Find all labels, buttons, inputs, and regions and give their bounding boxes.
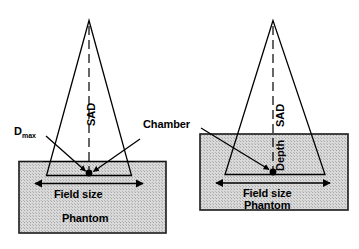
diagram-canvas: D max SAD Field size Phantom (0, 0, 359, 249)
sad-label-right: SAD (274, 104, 286, 127)
field-size-label-right: Field size (243, 187, 292, 199)
phantom-label-left: Phantom (62, 212, 109, 224)
chamber-label: Chamber (143, 118, 191, 130)
panel-sad-setup: SAD Depth Field size Phantom (200, 21, 348, 212)
phantom-label-right: Phantom (244, 199, 291, 211)
chamber-point-left (86, 170, 93, 177)
sad-label-left: SAD (85, 103, 97, 126)
dmax-label-left: D max (14, 125, 36, 139)
dmax-label-main: D (14, 125, 22, 137)
depth-label-right: Depth (274, 140, 286, 171)
beam-geometry-figure: D max SAD Field size Phantom (0, 0, 359, 249)
field-size-label-left: Field size (54, 188, 103, 200)
dmax-label-subscript: max (22, 132, 36, 139)
